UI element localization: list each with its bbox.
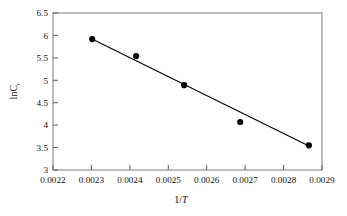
data-point bbox=[237, 119, 243, 125]
x-tick-label: 0.0024 bbox=[117, 175, 143, 185]
x-tick-label: 0.0029 bbox=[309, 175, 335, 185]
y-axis-tick-labels: 6.5 6 5.5 5 4.5 4 3.5 3 bbox=[37, 8, 49, 175]
y-tick-label: 6.5 bbox=[37, 8, 49, 18]
y-tick-label: 6 bbox=[43, 31, 48, 41]
y-tick-label: 4 bbox=[43, 120, 48, 130]
x-tick-label: 0.0026 bbox=[194, 175, 220, 185]
data-point bbox=[306, 142, 312, 148]
y-tick-label: 3 bbox=[43, 165, 48, 175]
y-tick-label: 5.5 bbox=[37, 53, 49, 63]
x-tick-label: 0.0023 bbox=[79, 175, 105, 185]
x-axis-title-variable: T bbox=[182, 194, 189, 205]
x-tick-label: 0.0025 bbox=[156, 175, 182, 185]
y-tick-label: 4.5 bbox=[37, 98, 49, 108]
y-tick-label: 3.5 bbox=[37, 143, 49, 153]
data-point bbox=[89, 36, 95, 42]
y-axis-title-subscript: r bbox=[14, 82, 22, 85]
svg-text:lnCr: lnCr bbox=[8, 82, 22, 99]
y-tick-label: 5 bbox=[43, 76, 48, 86]
data-point bbox=[181, 82, 187, 88]
x-axis-title: 1/T bbox=[174, 194, 189, 205]
chart-figure: 6.5 6 5.5 5 4.5 4 3.5 3 0.0022 0.0023 0.… bbox=[0, 0, 347, 216]
data-point bbox=[133, 53, 139, 59]
x-tick-label: 0.0028 bbox=[271, 175, 297, 185]
y-axis-title-main: lnC bbox=[8, 85, 19, 100]
svg-text:1/T: 1/T bbox=[174, 194, 189, 205]
x-tick-label: 0.0027 bbox=[232, 175, 258, 185]
y-axis-title: lnCr bbox=[8, 82, 22, 99]
arrhenius-scatter-plot: 6.5 6 5.5 5 4.5 4 3.5 3 0.0022 0.0023 0.… bbox=[0, 0, 347, 216]
x-axis-tick-labels: 0.0022 0.0023 0.0024 0.0025 0.0026 0.002… bbox=[40, 175, 335, 185]
x-tick-label: 0.0022 bbox=[40, 175, 66, 185]
